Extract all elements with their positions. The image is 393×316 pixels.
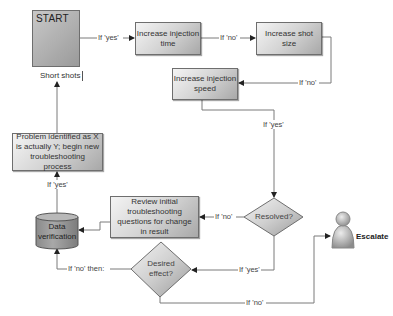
edge-label-shot-speed: If 'no' xyxy=(298,78,317,87)
edge-label-start-time: If 'yes' xyxy=(97,33,120,42)
edge-label-data-problem: If 'yes' xyxy=(46,180,69,189)
desired-effect-label: Desired effect? xyxy=(136,259,186,279)
edge-label-resolved-desired: If 'yes' xyxy=(238,265,261,274)
start-title: START xyxy=(36,13,69,24)
review-questions-node: Review initial troubleshooting questions… xyxy=(110,196,199,238)
escalate-label: Escalate xyxy=(356,232,388,241)
problem-identified-node: Problem identified as X is actually Y; b… xyxy=(12,133,103,171)
edge-label-desired-escalate: If 'no' xyxy=(245,298,264,307)
edge-label-speed-resolved: If 'yes' xyxy=(262,120,285,129)
data-verification-label: Data verification xyxy=(34,222,80,242)
person-icon xyxy=(332,212,354,248)
resolved-label: Resolved? xyxy=(244,212,304,222)
start-label: Short shots xyxy=(40,71,83,81)
increase-injection-time-node: Increase injection time xyxy=(135,22,201,55)
edge-label-time-shot: If 'no' xyxy=(219,33,238,42)
start-node: START xyxy=(32,10,80,67)
edge-label-resolved-review: If 'no' xyxy=(214,212,233,221)
edge-label-desired-data: If 'no' then: xyxy=(67,264,105,273)
increase-injection-speed-node: Increase injection speed xyxy=(172,68,238,100)
increase-shot-size-node: Increase shot size xyxy=(256,22,322,55)
